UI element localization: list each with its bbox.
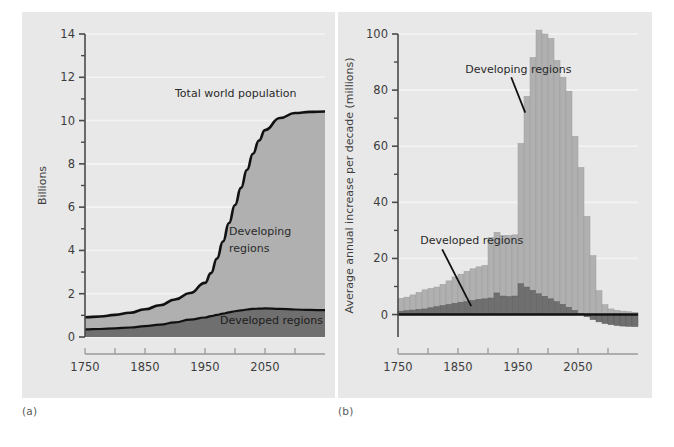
bar-developed — [554, 302, 560, 315]
bar-developed-negative — [608, 315, 614, 325]
bar-developing — [548, 38, 554, 314]
bar-developing — [566, 91, 572, 314]
bar-developed — [542, 296, 548, 314]
x-tick-label: 1850 — [130, 360, 159, 374]
y-tick-label: 80 — [373, 83, 388, 97]
x-tick-label: 2050 — [563, 360, 592, 374]
plot-area-b: 0204060801001750185019502050Average annu… — [343, 27, 638, 374]
x-tick-label: 1750 — [70, 360, 99, 374]
chart-panel-b: 0204060801001750185019502050Average annu… — [338, 12, 652, 398]
plot-area-a: 024681012141750185019502050BillionsTotal… — [36, 27, 325, 374]
y-tick-label: 20 — [373, 251, 388, 265]
label-developed-regions: Developed regions — [220, 314, 323, 327]
bar-developed — [536, 294, 542, 315]
bar-developed-negative — [614, 315, 620, 326]
population-area-chart: 024681012141750185019502050BillionsTotal… — [22, 12, 335, 398]
label-developed-regions: Developed regions — [420, 234, 523, 247]
label-developing-regions-line2: regions — [229, 242, 270, 255]
caption-b: (b) — [338, 405, 353, 417]
bar-developing — [572, 136, 578, 314]
bar-developed-negative — [602, 315, 608, 324]
bar-developing — [560, 77, 566, 314]
bar-developed — [512, 296, 518, 315]
y-tick-label: 14 — [60, 27, 75, 41]
x-tick-label: 1950 — [503, 360, 532, 374]
bar-developed — [524, 287, 530, 314]
label-developing-regions: Developing regions — [465, 63, 572, 76]
bar-developed — [560, 304, 566, 314]
y-axis-title: Average annual increase per decade (mill… — [343, 58, 356, 314]
leader-line-developing — [511, 77, 525, 112]
bar-developed — [518, 284, 524, 315]
bar-developing — [524, 96, 530, 314]
x-tick-label: 2050 — [250, 360, 279, 374]
bar-developed — [470, 301, 476, 315]
x-tick-label: 1750 — [383, 360, 412, 374]
bar-developing — [554, 60, 560, 314]
bar-developed — [500, 296, 506, 315]
chart-panel-a: 024681012141750185019502050BillionsTotal… — [22, 12, 335, 398]
y-tick-label: 2 — [68, 287, 75, 301]
bar-developed — [458, 302, 464, 314]
y-tick-label: 8 — [68, 157, 75, 171]
y-tick-label: 100 — [366, 27, 388, 41]
x-tick-label: 1850 — [443, 360, 472, 374]
bar-developed — [446, 304, 452, 314]
bar-developed — [452, 303, 458, 314]
bar-developed-negative — [620, 315, 626, 327]
bar-developed — [440, 306, 446, 315]
y-tick-label: 10 — [60, 114, 75, 128]
y-axis-title: Billions — [36, 166, 49, 205]
caption-a: (a) — [22, 405, 37, 417]
bar-developed — [488, 298, 494, 315]
bar-developing — [578, 168, 584, 315]
y-tick-label: 6 — [68, 200, 75, 214]
bar-developing — [596, 291, 602, 315]
y-tick-label: 40 — [373, 195, 388, 209]
figure-root: 024681012141750185019502050BillionsTotal… — [0, 0, 674, 447]
label-developing-regions-line1: Developing — [229, 225, 291, 238]
area-developing — [85, 111, 325, 337]
bar-developing — [602, 305, 608, 315]
bar-developed — [548, 299, 554, 315]
y-tick-label: 4 — [68, 243, 75, 257]
bar-developing — [584, 216, 590, 314]
bar-developed — [494, 293, 500, 315]
bar-developed-negative — [632, 315, 638, 327]
y-tick-label: 60 — [373, 139, 388, 153]
bar-developed — [482, 299, 488, 315]
bar-developed — [506, 297, 512, 315]
label-total-world-population: Total world population — [174, 87, 297, 100]
bar-developed — [530, 290, 536, 314]
x-tick-label: 1950 — [190, 360, 219, 374]
annual-increase-bar-chart: 0204060801001750185019502050Average annu… — [338, 12, 652, 398]
y-tick-label: 0 — [381, 308, 388, 322]
bar-developing — [590, 256, 596, 315]
y-tick-label: 12 — [60, 70, 75, 84]
bar-developing — [530, 58, 536, 315]
y-tick-label: 0 — [68, 330, 75, 344]
bar-developed-negative — [626, 315, 632, 327]
bar-developed — [476, 299, 482, 314]
